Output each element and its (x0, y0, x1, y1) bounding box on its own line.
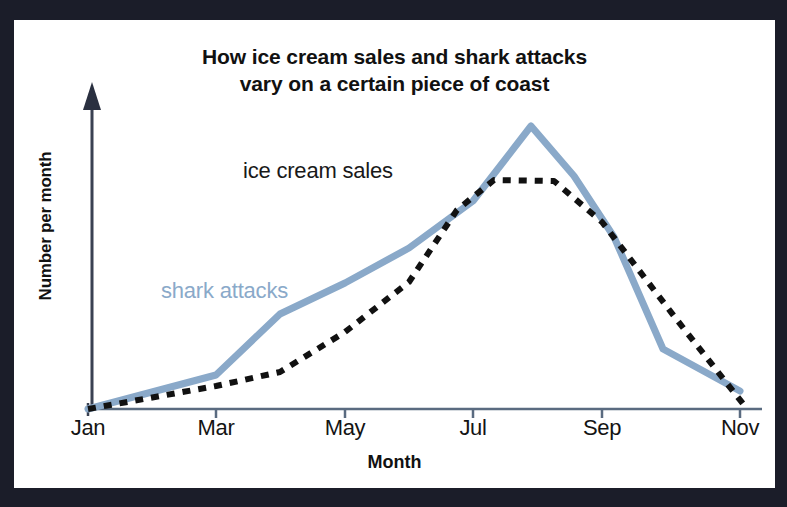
chart-card: How ice cream sales and shark attacks va… (14, 20, 775, 488)
chart-figure: How ice cream sales and shark attacks va… (0, 0, 787, 507)
x-tick-label-sep: Sep (557, 415, 647, 441)
x-tick-label-nov: Nov (695, 415, 785, 441)
x-tick-label-jan: Jan (43, 415, 133, 441)
x-tick-label-mar: Mar (171, 415, 261, 441)
x-tick-label-jul: Jul (428, 415, 518, 441)
series-annotation-ice-cream-sales: ice cream sales (243, 158, 393, 184)
y-axis-arrow-icon (83, 82, 101, 110)
x-axis-label: Month (14, 452, 775, 473)
x-tick-label-may: May (300, 415, 390, 441)
series-annotation-shark-attacks: shark attacks (161, 278, 288, 304)
series-line-shark-attacks (88, 126, 740, 409)
